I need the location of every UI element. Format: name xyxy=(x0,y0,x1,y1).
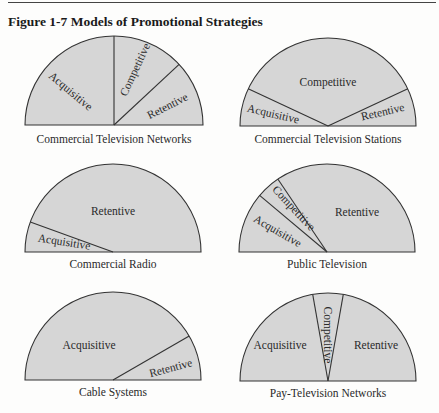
segment-label-retentive: Retentive xyxy=(91,205,135,217)
segment-label-acquisitive: Acquisitive xyxy=(253,339,306,352)
diagram-commercial-television-networks: AcquisitiveCompetitiveRetentiveCommercia… xyxy=(25,36,203,145)
diagram-pay-television-networks: AcquisitiveCompetitiveRetentivePay-Telev… xyxy=(240,293,416,400)
diagram-caption: Public Television xyxy=(287,258,367,270)
diagram-caption: Pay-Television Networks xyxy=(270,387,387,400)
diagram-public-television: RetentiveCompetitiveAcquisitivePublic Te… xyxy=(239,164,415,270)
segment-label-competitive: Competitive xyxy=(321,307,334,364)
diagram-caption: Commercial Radio xyxy=(69,258,156,270)
diagram-cable-systems: AcquisitiveRetentiveCable Systems xyxy=(25,292,201,399)
strategy-diagrams: AcquisitiveCompetitiveRetentiveCommercia… xyxy=(0,0,439,413)
segment-label-competitive: Competitive xyxy=(300,76,357,89)
segment-label-retentive: Retentive xyxy=(354,339,398,351)
semicircle xyxy=(239,164,415,252)
segment-label-retentive: Retentive xyxy=(335,206,379,218)
diagram-caption: Cable Systems xyxy=(79,386,148,399)
diagram-commercial-television-stations: CompetitiveAcquisitiveRetentiveCommercia… xyxy=(240,38,416,145)
segment-label-acquisitive: Acquisitive xyxy=(62,339,115,352)
diagram-caption: Commercial Television Stations xyxy=(254,133,402,145)
diagram-caption: Commercial Television Networks xyxy=(37,133,192,145)
diagram-commercial-radio: RetentiveAcquisitiveCommercial Radio xyxy=(25,164,201,270)
